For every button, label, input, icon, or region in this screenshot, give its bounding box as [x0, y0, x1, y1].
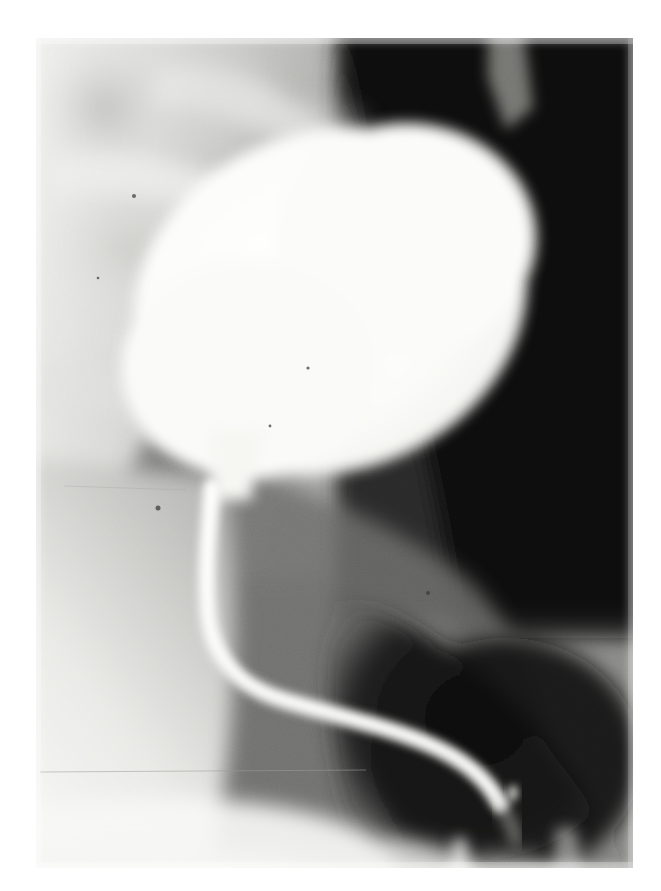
radiograph-page: [0, 0, 661, 891]
film-grain-overlay: [36, 38, 633, 868]
radiograph-svg: [36, 38, 633, 868]
caption-area: [0, 868, 661, 891]
radiograph-image: [36, 38, 633, 868]
